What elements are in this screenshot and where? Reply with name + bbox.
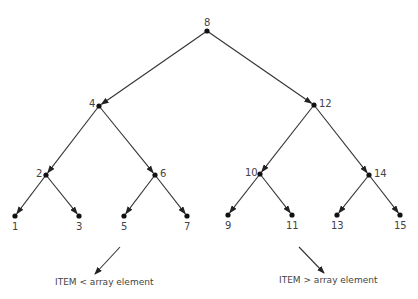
node-1 bbox=[12, 213, 17, 218]
node-label-7: 7 bbox=[184, 222, 190, 232]
node-label-11: 11 bbox=[286, 221, 299, 231]
node-14 bbox=[366, 172, 371, 177]
tree-edges bbox=[17, 31, 398, 214]
edge-n4-n2 bbox=[48, 106, 99, 173]
node-2 bbox=[43, 172, 48, 177]
left-direction-arrow bbox=[95, 247, 120, 274]
node-10 bbox=[257, 171, 262, 176]
node-label-6: 6 bbox=[160, 169, 166, 179]
right-direction-arrow bbox=[299, 247, 324, 273]
node-label-4: 4 bbox=[89, 99, 95, 109]
edge-n12-n14 bbox=[314, 105, 367, 173]
node-label-1: 1 bbox=[12, 222, 18, 232]
node-7 bbox=[184, 213, 189, 218]
left-subtree-caption: ITEM < array element bbox=[55, 277, 153, 287]
node-label-14: 14 bbox=[374, 169, 387, 179]
edge-n12-n10 bbox=[262, 105, 314, 172]
node-label-5: 5 bbox=[121, 222, 127, 232]
node-6 bbox=[152, 172, 157, 177]
edge-n8-n4 bbox=[102, 31, 208, 104]
node-label-13: 13 bbox=[331, 221, 344, 231]
edge-n2-n1 bbox=[17, 175, 46, 214]
node-label-9: 9 bbox=[225, 221, 231, 231]
node-15 bbox=[397, 212, 402, 217]
edge-n8-n12 bbox=[207, 31, 312, 103]
edge-n6-n7 bbox=[155, 175, 185, 214]
node-3 bbox=[76, 213, 81, 218]
node-label-10: 10 bbox=[245, 168, 258, 178]
node-12 bbox=[311, 102, 316, 107]
edge-n2-n3 bbox=[46, 175, 77, 214]
node-label-8: 8 bbox=[204, 18, 210, 28]
node-9 bbox=[225, 212, 230, 217]
node-4 bbox=[96, 103, 101, 108]
edge-n14-n13 bbox=[339, 175, 369, 213]
edge-n10-n11 bbox=[260, 174, 290, 213]
node-label-12: 12 bbox=[319, 99, 332, 109]
node-label-3: 3 bbox=[76, 222, 82, 232]
edge-n4-n6 bbox=[99, 106, 153, 173]
node-label-2: 2 bbox=[36, 169, 42, 179]
tree-nodes bbox=[12, 28, 402, 218]
node-label-15: 15 bbox=[394, 221, 407, 231]
tree-diagram bbox=[0, 0, 418, 299]
edge-n6-n5 bbox=[126, 175, 155, 214]
node-11 bbox=[289, 212, 294, 217]
edge-n14-n15 bbox=[369, 175, 398, 213]
right-subtree-caption: ITEM > array element bbox=[279, 275, 377, 285]
node-8 bbox=[204, 28, 209, 33]
node-5 bbox=[121, 213, 126, 218]
node-13 bbox=[334, 212, 339, 217]
edge-n10-n9 bbox=[230, 174, 260, 213]
